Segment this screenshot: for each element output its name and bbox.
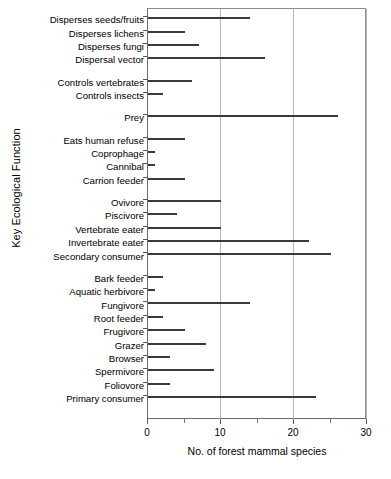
bar [148,44,199,46]
bar [148,17,250,19]
y-axis-tick [143,395,148,396]
bar [148,369,214,371]
bar [148,316,163,318]
category-label: Bark feeder [12,274,144,284]
category-label: Dispersal vector [12,55,144,65]
y-axis-tick [143,150,148,151]
bar [148,93,163,95]
y-axis-tick [143,226,148,227]
y-axis-tick [143,301,148,302]
y-axis-tick [143,56,148,57]
category-label: Disperses seeds/fruits [12,15,144,25]
category-label: Root feeder [12,314,144,324]
bar [148,302,250,304]
x-axis-tick [147,419,148,424]
x-axis-title: No. of forest mammal species [147,445,367,457]
bar [148,356,170,358]
bar [148,80,192,82]
y-axis-tick [143,368,148,369]
y-axis-tick [143,382,148,383]
y-axis-tick [143,355,148,356]
x-axis-tick-label: 20 [278,427,308,438]
y-axis-tick [143,30,148,31]
y-axis-tick [143,199,148,200]
bar [148,343,206,345]
y-axis-tick [143,315,148,316]
category-label: Spermivore [12,367,144,377]
category-label: Ovivore [12,198,144,208]
y-axis-tick [143,275,148,276]
bar [148,227,221,229]
y-axis-tick [143,137,148,138]
category-label: Secondary consumer [12,252,144,262]
category-label: Frugivore [12,327,144,337]
x-axis-minor-tick [330,419,331,423]
gridline-x-10 [220,9,221,419]
category-label: Controls vertebrates [12,78,144,88]
y-axis-tick [143,16,148,17]
x-axis-tick-label: 10 [205,427,235,438]
y-axis-tick [143,177,148,178]
bar [148,276,163,278]
category-label: Cannibal [12,162,144,172]
category-label: Aquatic herbivore [12,287,144,297]
y-axis-tick [143,163,148,164]
y-axis-tick [143,212,148,213]
bar [148,396,316,398]
x-axis-tick [293,419,294,424]
y-axis-tick [143,239,148,240]
gridline-x-30 [366,9,367,419]
category-label: Carrion feeder [12,176,144,186]
category-label: Grazer [12,341,144,351]
y-axis-tick [143,288,148,289]
category-label: Primary consumer [12,394,144,404]
category-label: Invertebrate eater [12,238,144,248]
category-label: Browser [12,354,144,364]
x-axis-tick [366,419,367,424]
category-label: Foliovore [12,381,144,391]
bar [148,151,155,153]
bar [148,200,221,202]
bar [148,253,331,255]
category-label: Fungivore [12,301,144,311]
category-label: Disperses fungi [12,42,144,52]
category-label: Coprophage [12,149,144,159]
y-axis-tick [143,79,148,80]
category-label: Vertebrate eater [12,225,144,235]
bar-chart: Key Ecological Function Disperses seeds/… [0,0,391,479]
y-axis-tick [143,342,148,343]
x-axis-tick [220,419,221,424]
x-axis-minor-tick [257,419,258,423]
category-label: Piscivore [12,211,144,221]
bar [148,289,155,291]
y-axis-tick [143,328,148,329]
bar [148,138,185,140]
bar [148,240,309,242]
bar [148,383,170,385]
bar [148,57,265,59]
y-axis-tick [143,252,148,253]
y-axis-tick [143,114,148,115]
category-label-column: Disperses seeds/fruitsDisperses lichensD… [14,8,144,418]
bar [148,329,185,331]
gridline-x-20 [293,9,294,419]
bar [148,31,185,33]
category-label: Controls insects [12,91,144,101]
bar [148,178,185,180]
y-axis-tick [143,43,148,44]
category-label: Eats human refuse [12,136,144,146]
bar [148,164,155,166]
bar [148,213,177,215]
x-axis-minor-tick [184,419,185,423]
x-axis-tick-label: 0 [132,427,162,438]
plot-area [147,8,366,418]
bar [148,115,338,117]
x-axis-tick-label: 30 [351,427,381,438]
category-label: Prey [12,113,144,123]
y-axis-tick [143,92,148,93]
category-label: Disperses lichens [12,29,144,39]
